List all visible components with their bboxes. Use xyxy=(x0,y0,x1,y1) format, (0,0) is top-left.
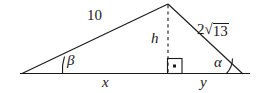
geometry-figure: 10 h 2 √ 13 β α x y xyxy=(0,0,257,93)
radicand-value: 13 xyxy=(213,23,229,40)
radical-coefficient: 2 xyxy=(197,22,205,37)
triangle-diagram-svg xyxy=(0,0,257,93)
altitude-label: h xyxy=(151,31,159,46)
angle-beta-label: β xyxy=(67,53,74,68)
angle-alpha-label: α xyxy=(214,55,222,70)
angle-arc-beta xyxy=(62,57,64,74)
radical-sign-icon: √ xyxy=(205,22,213,37)
left-side-length-label: 10 xyxy=(87,8,102,23)
base-segment-y-label: y xyxy=(200,75,207,90)
base-segment-x-label: x xyxy=(102,75,109,90)
right-side-length-label: 2 √ 13 xyxy=(197,21,229,40)
right-angle-marker-dot xyxy=(173,65,176,68)
